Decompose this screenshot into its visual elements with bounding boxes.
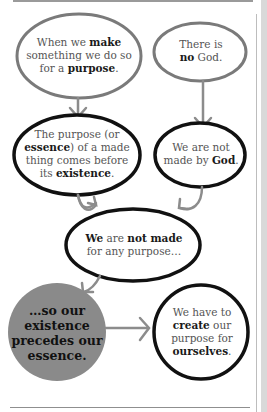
emphasis: no [180, 51, 195, 63]
text: precedes our [12, 333, 103, 348]
node-existence-precedes: …so our existence precedes our essence. [10, 303, 104, 363]
text: . [115, 62, 118, 74]
arrow-right-icon [106, 318, 149, 340]
text: . [228, 345, 231, 357]
text: for a [40, 62, 68, 74]
node-create-purpose: We have to create our purpose for oursel… [164, 306, 240, 358]
emphasis: not made [127, 232, 182, 244]
text: We are not [172, 141, 230, 153]
node-make-purpose: When we make something we do so for a pu… [22, 36, 136, 75]
emphasis: purpose [68, 62, 115, 74]
node-no-god: There is no God. [162, 38, 240, 64]
emphasis: We [86, 232, 104, 244]
text: are [103, 232, 127, 244]
text: its [40, 167, 56, 179]
emphasis: God [212, 154, 235, 166]
text: God. [194, 51, 222, 63]
text: something we do so [26, 49, 132, 61]
text: . [111, 167, 114, 179]
text: The purpose (or [34, 128, 119, 140]
text: ) of a made [70, 141, 130, 153]
text: purpose for [171, 332, 233, 344]
emphasis: existence [56, 167, 111, 179]
text: thing comes before [26, 154, 129, 166]
text: When we [37, 36, 89, 48]
curved-arrow-icon [179, 187, 202, 209]
text: We have to [173, 306, 232, 318]
arrow-down-icon [195, 81, 211, 127]
text: essence. [28, 348, 87, 363]
emphasis: create [173, 319, 210, 331]
emphasis: make [89, 36, 121, 48]
curved-arrow-icon [78, 195, 96, 210]
emphasis: ourselves [173, 345, 228, 357]
node-essence-before: The purpose (or essence) of a made thing… [18, 128, 136, 180]
node-not-made-for-purpose: We are not made for any purpose… [78, 232, 190, 258]
text: made by [163, 154, 211, 166]
node-not-made-by-god: We are not made by God. [160, 141, 242, 167]
text: There is [179, 38, 222, 50]
text: our [210, 319, 231, 331]
text: …so our [29, 303, 85, 318]
text: existence [24, 318, 90, 333]
emphasis: essence [24, 141, 70, 153]
text: for any purpose… [87, 245, 182, 257]
text: . [235, 154, 238, 166]
curved-arrow-icon [82, 276, 100, 292]
